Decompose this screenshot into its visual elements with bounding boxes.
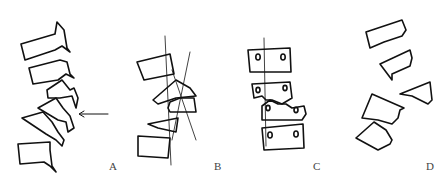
panel-label-a: A (109, 160, 117, 172)
panel-label-b: B (214, 160, 221, 172)
panel-label-c: C (313, 160, 320, 172)
figure: A B C D (0, 0, 444, 185)
panel-a-drawing (18, 22, 108, 172)
panel-label-d: D (426, 160, 434, 172)
panel-d-drawing (356, 20, 432, 150)
panel-c-drawing (248, 38, 306, 150)
vertebrae-drawing (0, 0, 444, 185)
panel-b-drawing (137, 36, 196, 165)
